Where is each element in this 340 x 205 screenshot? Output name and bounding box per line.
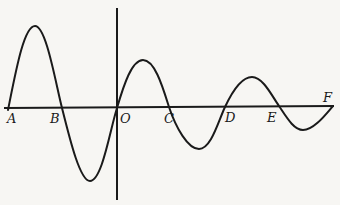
wave-curve xyxy=(8,26,333,181)
label-b: B xyxy=(49,111,60,126)
label-a: A xyxy=(6,111,16,126)
label-o: O xyxy=(120,111,131,126)
label-c: C xyxy=(164,111,174,126)
label-e: E xyxy=(266,110,277,125)
oscillation-diagram: A B O C D E F xyxy=(0,0,340,205)
label-f: F xyxy=(322,90,333,105)
label-d: D xyxy=(224,110,236,125)
